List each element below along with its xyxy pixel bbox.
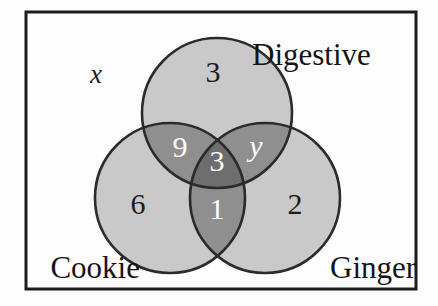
- region-value-cookie-digestive: 9: [173, 130, 188, 163]
- region-value-digestive-ginger: y: [246, 129, 263, 162]
- region-value-all-three: 3: [210, 144, 225, 177]
- region-value-cookie-ginger: 1: [210, 192, 225, 225]
- region-value-ginger-only: 2: [288, 187, 303, 220]
- universal-set-label: x: [89, 59, 102, 89]
- venn-diagram-figure: 3 6 2 9 y 1 3 Digestive Cookie Ginger x: [0, 0, 438, 306]
- region-value-digestive-only: 3: [206, 55, 221, 88]
- set-label-cookie: Cookie: [50, 250, 140, 285]
- set-label-digestive: Digestive: [252, 37, 371, 72]
- set-label-ginger: Ginger: [330, 250, 417, 285]
- region-value-cookie-only: 6: [131, 187, 146, 220]
- venn-diagram-canvas: 3 6 2 9 y 1 3 Digestive Cookie Ginger x: [0, 0, 438, 306]
